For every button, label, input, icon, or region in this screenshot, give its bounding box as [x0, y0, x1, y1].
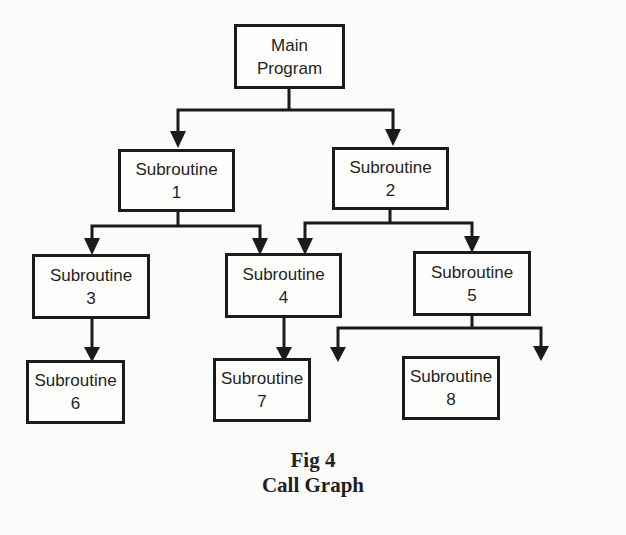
node-label-line2: 2	[386, 179, 395, 202]
node-subroutine-4: Subroutine 4	[225, 253, 342, 318]
node-label-line1: Subroutine	[50, 264, 132, 287]
node-label-line1: Subroutine	[431, 261, 513, 284]
node-label-line1: Subroutine	[410, 365, 492, 388]
node-label-line1: Subroutine	[242, 263, 324, 286]
node-subroutine-1: Subroutine 1	[118, 149, 235, 212]
node-label-line2: 4	[279, 286, 288, 309]
node-label-line1: Subroutine	[135, 158, 217, 181]
node-subroutine-3: Subroutine 3	[32, 254, 150, 319]
call-graph-diagram: Main Program Subroutine 1 Subroutine 2 S…	[0, 0, 626, 535]
node-subroutine-2: Subroutine 2	[332, 147, 449, 210]
node-label-line2: 8	[446, 388, 455, 411]
node-label-line2: 7	[257, 390, 266, 413]
figure-title: Call Graph	[0, 473, 626, 498]
node-label-line1: Subroutine	[34, 369, 116, 392]
node-label-line2: 1	[172, 181, 181, 204]
node-label-line2: 5	[467, 284, 476, 307]
node-label-line2: 6	[71, 392, 80, 415]
node-subroutine-7: Subroutine 7	[213, 358, 311, 422]
node-label-line2: Program	[257, 57, 322, 80]
node-label-line1: Main	[271, 34, 308, 57]
node-label-line1: Subroutine	[349, 156, 431, 179]
node-main-program: Main Program	[234, 24, 345, 89]
node-label-line2: 3	[86, 287, 95, 310]
node-subroutine-8: Subroutine 8	[402, 356, 500, 420]
node-subroutine-6: Subroutine 6	[26, 360, 125, 424]
node-label-line1: Subroutine	[221, 367, 303, 390]
node-subroutine-5: Subroutine 5	[413, 251, 531, 316]
figure-number: Fig 4	[0, 448, 626, 473]
